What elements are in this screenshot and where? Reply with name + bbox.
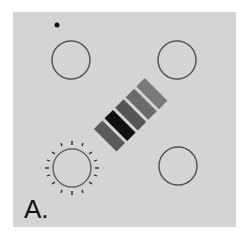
panel-label: A. <box>24 196 49 222</box>
circle-bottom-right <box>159 147 197 185</box>
grating-bars <box>94 78 168 152</box>
fixation-dot <box>55 23 60 28</box>
circle-bottom-left <box>53 149 91 187</box>
circle-top-left <box>52 41 90 79</box>
circle-top-right <box>158 41 196 79</box>
